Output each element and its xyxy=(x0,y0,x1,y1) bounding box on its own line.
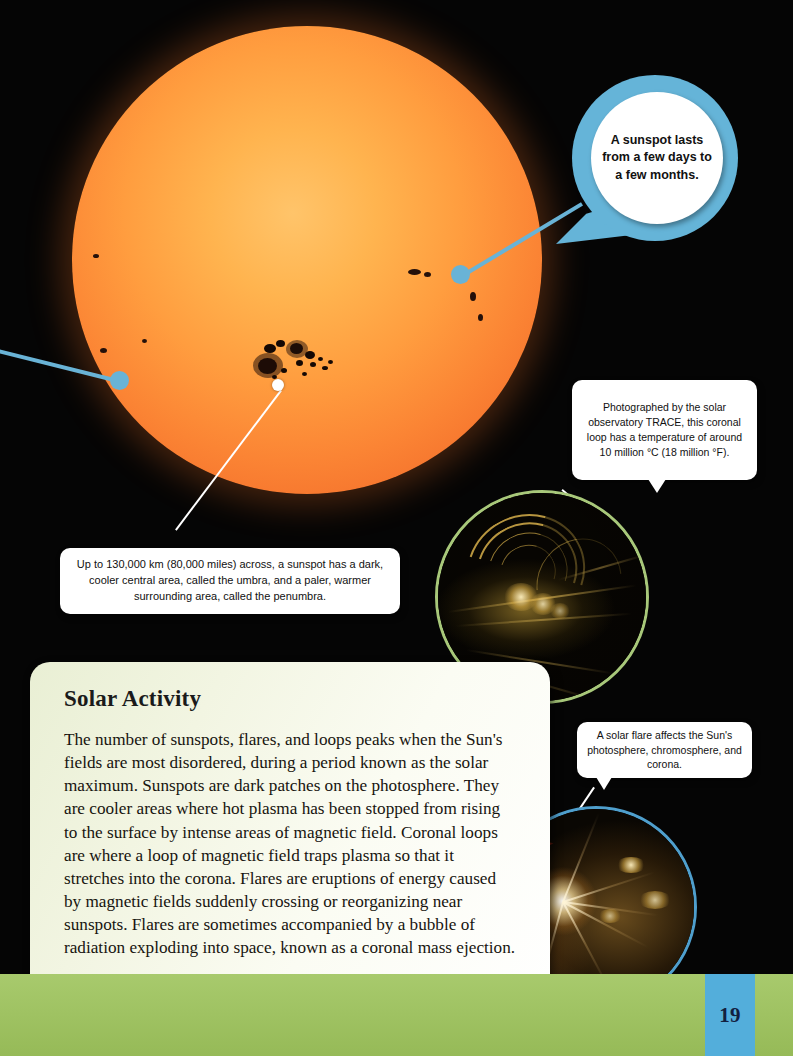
bubble-text: A sunspot lasts from a few days to a few… xyxy=(591,132,723,184)
footer-green-band xyxy=(0,974,793,1056)
bubble-inner: A sunspot lasts from a few days to a few… xyxy=(591,92,723,224)
sunspot-umbra-penumbra-caption: Up to 130,000 km (80,000 miles) across, … xyxy=(60,548,400,614)
caption-tail-trace xyxy=(648,479,666,493)
leader-dot-bubble xyxy=(451,265,470,284)
sun-photograph xyxy=(72,26,542,494)
solar-flare-caption: A solar flare affects the Sun's photosph… xyxy=(577,722,752,778)
caption-text: Photographed by the solar observatory TR… xyxy=(572,392,757,468)
sunspot-cluster xyxy=(248,340,338,388)
leader-dot-left xyxy=(110,371,129,390)
body-text: The number of sunspots, flares, and loop… xyxy=(64,728,516,959)
leader-dot-sunspot xyxy=(272,379,284,391)
page-title: Solar Activity xyxy=(64,686,520,712)
caption-text: A solar flare affects the Sun's photosph… xyxy=(577,720,752,781)
caption-text: Up to 130,000 km (80,000 miles) across, … xyxy=(60,549,400,613)
page-number-tab: 19 xyxy=(705,974,755,1056)
page-number: 19 xyxy=(719,1003,741,1028)
trace-coronal-loop-caption: Photographed by the solar observatory TR… xyxy=(572,380,757,480)
book-page: A sunspot lasts from a few days to a few… xyxy=(0,0,793,1056)
solar-activity-panel: Solar Activity The number of sunspots, f… xyxy=(30,662,550,1018)
caption-tail-flare xyxy=(596,777,612,790)
